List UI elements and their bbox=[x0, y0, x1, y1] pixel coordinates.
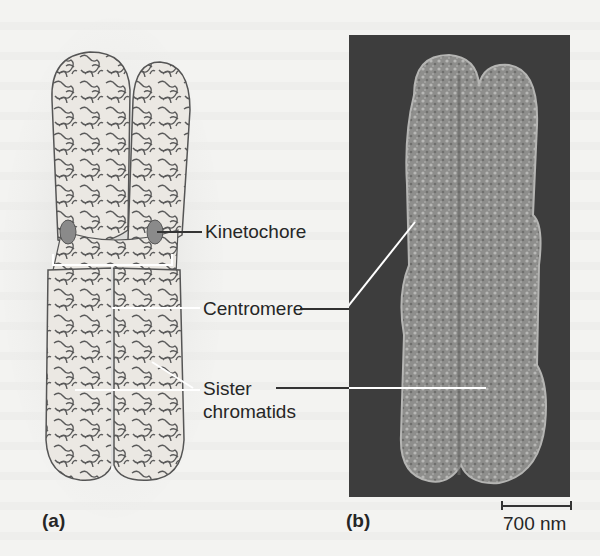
panel-label-a: (a) bbox=[42, 510, 65, 532]
scale-bar bbox=[501, 505, 572, 507]
scale-bar-tick-right bbox=[570, 501, 572, 510]
leader-connectors bbox=[0, 0, 600, 556]
label-centromere: Centromere bbox=[203, 298, 303, 320]
label-chromatids: chromatids bbox=[203, 401, 296, 423]
label-sister: Sister bbox=[203, 378, 252, 400]
scale-bar-tick-left bbox=[501, 501, 503, 510]
label-kinetochore: Kinetochore bbox=[205, 221, 306, 243]
scale-bar-label: 700 nm bbox=[503, 513, 566, 535]
panel-label-b: (b) bbox=[346, 510, 370, 532]
